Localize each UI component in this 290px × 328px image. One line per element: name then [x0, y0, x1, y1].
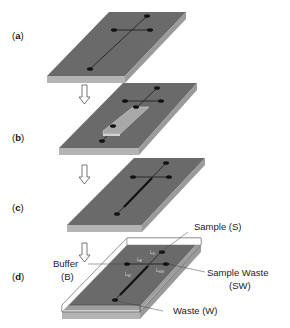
reservoir-dot — [87, 67, 93, 71]
reservoir-dot — [110, 124, 116, 128]
panel-label-d: (d) — [12, 271, 24, 282]
annotation-sample-waste-abbrev: (SW) — [229, 280, 251, 291]
annotation-waste: Waste (W) — [173, 305, 218, 316]
reservoir-dot — [166, 175, 172, 179]
panel-label-b: (b) — [12, 132, 24, 143]
substrate-top-face — [67, 158, 205, 225]
reservoir-dot — [122, 99, 128, 103]
down-arrow-icon — [79, 85, 90, 104]
panel-label-c: (c) — [12, 202, 24, 213]
panel-a: (a) — [12, 12, 186, 83]
reservoir-dot — [114, 212, 120, 216]
panel-c: (c) — [12, 158, 205, 232]
cover-layer-front — [62, 305, 140, 312]
annotation-buffer: Buffer — [53, 258, 78, 269]
down-arrow-icon — [79, 243, 90, 262]
substrate-front-edge — [59, 148, 139, 155]
down-arrow-icon — [79, 165, 90, 184]
reservoir-dot — [163, 161, 169, 165]
annotation-buffer-abbrev: (B) — [61, 271, 74, 282]
reservoir-dot — [154, 86, 160, 90]
reservoir-dot — [133, 105, 139, 109]
reservoir-dot — [99, 139, 105, 143]
reservoir-dot — [147, 28, 153, 32]
microfluidic-fabrication-diagram: (a) (b) (c) — [0, 0, 290, 328]
reservoir-dot — [158, 99, 164, 103]
annotation-sample-waste: Sample Waste — [207, 267, 268, 278]
annotation-sample: Sample (S) — [194, 221, 242, 232]
panel-d: (d) LS LB LW LSW Sample (S) Buffer (B) — [12, 221, 268, 319]
reservoir-dot — [130, 175, 136, 179]
substrate-front-edge — [47, 76, 125, 83]
substrate-front-edge — [67, 225, 142, 232]
overlay-strip-edge — [103, 134, 120, 136]
reservoir-dot — [144, 14, 150, 18]
reservoir-dot-sample — [159, 250, 165, 254]
reservoir-dot — [111, 28, 117, 32]
panel-label-a: (a) — [12, 30, 24, 41]
panel-b: (b) — [12, 83, 197, 155]
cover-layer-back-face — [127, 238, 201, 245]
